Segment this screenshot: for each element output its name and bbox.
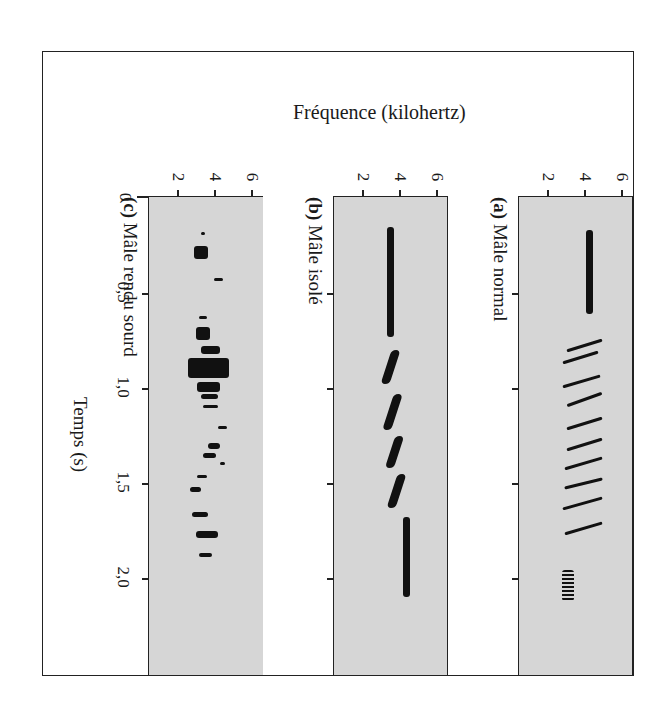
spectrogram-segment <box>192 512 209 518</box>
frequency-tick-label: 2 <box>168 170 188 184</box>
time-tick <box>327 293 333 295</box>
spectrogram-segment <box>562 497 602 511</box>
frequency-tick-label: 6 <box>242 170 262 184</box>
frequency-tick <box>621 190 623 196</box>
frequency-tick-label: 4 <box>575 170 595 184</box>
spectrogram-segment <box>201 232 205 235</box>
spectrogram-segment <box>562 570 574 600</box>
spectrogram-segment <box>203 405 218 408</box>
spectrogram-segment <box>197 382 219 392</box>
time-tick-label: 2,0 <box>113 566 133 587</box>
frequency-tick <box>399 190 401 196</box>
spectrogram-segment <box>562 375 600 389</box>
time-tick-label: 1,0 <box>113 376 133 397</box>
spectrogram-segment <box>197 475 206 478</box>
spectrogram-segment <box>208 443 219 449</box>
frequency-tick <box>584 190 586 196</box>
spectrogram-segment <box>382 394 403 430</box>
spectrogram-segment <box>199 316 206 319</box>
spectrogram-segment <box>403 517 410 597</box>
spectrogram-segment <box>196 327 211 340</box>
time-tick <box>327 578 333 580</box>
frequency-tick <box>362 190 364 196</box>
time-tick-label: 0 <box>115 193 135 202</box>
panel-letter-a: (a) <box>490 197 511 219</box>
spectrogram-panel-normal-male: 246 <box>518 196 633 676</box>
time-tick <box>512 388 518 390</box>
spectrogram-segment <box>201 394 218 400</box>
spectrogram-segment <box>190 487 201 493</box>
frequency-tick-label: 4 <box>205 170 225 184</box>
frequency-tick <box>251 190 253 196</box>
spectrogram-segment <box>188 358 229 379</box>
time-zero-tick <box>137 196 148 198</box>
time-tick <box>142 483 148 485</box>
spectrogram-segment <box>201 346 220 354</box>
spectrogram-segment <box>566 417 602 431</box>
spectrogram-panel-deafened-male: 246 <box>148 196 263 676</box>
time-tick <box>512 578 518 580</box>
frequency-tick-label: 4 <box>390 170 410 184</box>
spectrogram-segment <box>564 521 602 535</box>
spectrogram-segment <box>218 426 227 429</box>
time-tick-label: 0,5 <box>113 281 133 302</box>
spectrogram-segment <box>194 246 209 259</box>
frequency-tick <box>214 190 216 196</box>
frequency-tick <box>547 190 549 196</box>
time-axis-label: Temps (s) <box>69 397 91 472</box>
time-tick-label: 1,5 <box>113 471 133 492</box>
spectrogram-segment <box>214 278 223 281</box>
frequency-tick-label: 2 <box>353 170 373 184</box>
spectrogram-segment <box>564 457 602 471</box>
time-tick <box>327 388 333 390</box>
spectrogram-segment <box>199 553 212 557</box>
time-tick <box>512 293 518 295</box>
frequency-tick <box>177 190 179 196</box>
frequency-tick-label: 6 <box>427 170 447 184</box>
time-tick <box>327 483 333 485</box>
time-tick <box>512 483 518 485</box>
time-tick <box>142 293 148 295</box>
spectrogram-segment <box>562 350 598 364</box>
spectrogram-segment <box>203 453 216 459</box>
time-tick <box>142 388 148 390</box>
spectrogram-segment <box>196 531 218 539</box>
spectrogram-segment <box>566 438 602 452</box>
frequency-tick <box>436 190 438 196</box>
spectrogram-segment <box>386 474 406 508</box>
frequency-tick-label: 2 <box>538 170 558 184</box>
panel-title-a: (a) Mâle normal <box>489 197 511 322</box>
spectrogram-segment <box>220 462 226 465</box>
panel-title-c: (c) Mâle rendu sourd <box>119 197 141 357</box>
frequency-tick-label: 6 <box>612 170 632 184</box>
spectrogram-segment <box>381 350 401 384</box>
panel-label-a: Mâle normal <box>490 224 511 322</box>
spectrogram-segment <box>566 392 602 407</box>
spectrogram-segment <box>564 477 602 489</box>
panel-title-b: (b) Mâle isolé <box>304 197 326 305</box>
panel-label-b: Mâle isolé <box>305 225 326 305</box>
spectrogram-segment <box>385 436 404 468</box>
panel-letter-b: (b) <box>305 197 326 220</box>
frequency-axis-label: Fréquence (kilohertz) <box>293 101 466 124</box>
spectrogram-panel-isolated-male: 246 <box>333 196 448 676</box>
spectrogram-segment <box>387 227 394 337</box>
time-tick <box>142 578 148 580</box>
spectrogram-segment <box>586 230 593 314</box>
